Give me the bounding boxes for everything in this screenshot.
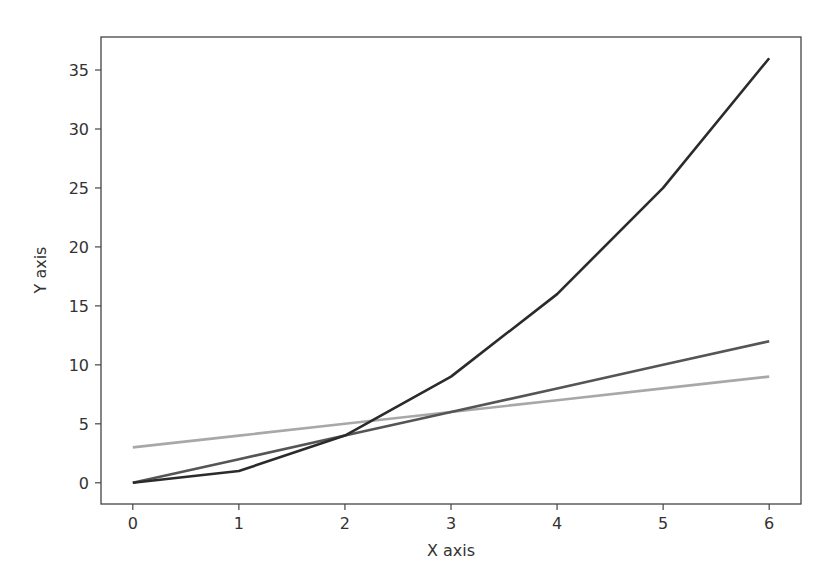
- y-tick-label: 20: [69, 238, 89, 257]
- y-tick-label: 10: [69, 356, 89, 375]
- plot-frame: [101, 37, 801, 504]
- y-axis-label: Y axis: [31, 247, 50, 295]
- x-tick-label: 1: [234, 514, 244, 533]
- x-tick-label: 5: [658, 514, 668, 533]
- y-tick-label: 0: [79, 474, 89, 493]
- series-line-2: [133, 341, 769, 483]
- y-tick-label: 5: [79, 415, 89, 434]
- line-chart: 0123456 05101520253035 X axis Y axis: [0, 0, 832, 588]
- y-tick-label: 15: [69, 297, 89, 316]
- x-tick-label: 4: [552, 514, 562, 533]
- x-tick-label: 6: [764, 514, 774, 533]
- x-tick-label: 0: [128, 514, 138, 533]
- y-tick-label: 35: [69, 61, 89, 80]
- y-axis-ticks: 05101520253035: [69, 61, 101, 493]
- series-line-1: [133, 58, 769, 483]
- y-tick-label: 30: [69, 120, 89, 139]
- plot-lines: [133, 58, 769, 483]
- x-axis-label: X axis: [427, 541, 475, 560]
- y-tick-label: 25: [69, 179, 89, 198]
- x-tick-label: 2: [340, 514, 350, 533]
- x-axis-ticks: 0123456: [128, 504, 775, 533]
- x-tick-label: 3: [446, 514, 456, 533]
